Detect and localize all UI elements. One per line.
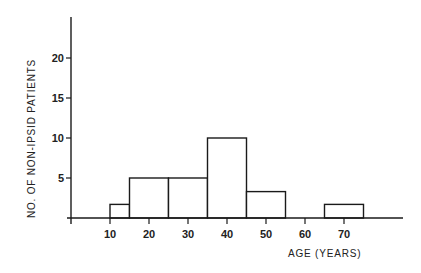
x-axis-ticks: 10203040506070 xyxy=(104,218,350,240)
y-tick-label: 20 xyxy=(52,52,64,64)
x-tick-label: 70 xyxy=(338,228,350,240)
y-axis-title: NO. OF NON-IPSID PATIENTS xyxy=(26,59,37,218)
x-tick-label: 20 xyxy=(143,228,155,240)
y-tick-label: 10 xyxy=(52,132,64,144)
x-tick-label: 60 xyxy=(299,228,311,240)
y-axis-ticks: 5101520 xyxy=(52,52,71,184)
x-tick-label: 40 xyxy=(221,228,233,240)
histogram-bar xyxy=(130,178,169,218)
x-tick-label: 10 xyxy=(104,228,116,240)
histogram-bar xyxy=(110,204,130,218)
histogram-bars xyxy=(110,138,364,218)
y-tick-label: 15 xyxy=(52,92,64,104)
x-tick-label: 50 xyxy=(260,228,272,240)
histogram-bar xyxy=(325,204,364,218)
histogram-bar xyxy=(169,178,208,218)
histogram-bar xyxy=(208,138,247,218)
histogram-chart: 5101520 10203040506070 AGE (YEARS) NO. O… xyxy=(0,0,421,273)
histogram-bar xyxy=(247,192,286,218)
y-tick-label: 5 xyxy=(58,172,64,184)
x-axis-title: AGE (YEARS) xyxy=(288,248,361,259)
x-tick-label: 30 xyxy=(182,228,194,240)
